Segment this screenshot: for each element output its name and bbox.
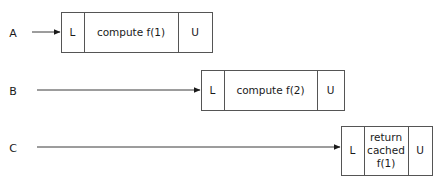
diagram-canvas: ALcompute f(1)UBLcompute f(2)UCLreturnca… bbox=[0, 0, 443, 182]
cell-body-text: compute f(1) bbox=[97, 26, 165, 38]
cell-lock-text: L bbox=[70, 26, 76, 38]
cell-unlock-text: U bbox=[191, 26, 199, 38]
cell-body-text: f(1) bbox=[377, 157, 396, 169]
cell-unlock-text: U bbox=[416, 144, 424, 156]
cell-lock-text: L bbox=[350, 144, 356, 156]
sequence-diagram: ALcompute f(1)UBLcompute f(2)UCLreturnca… bbox=[0, 0, 443, 182]
lane-label-b: B bbox=[9, 85, 17, 98]
lane-label-c: C bbox=[9, 142, 17, 155]
cell-body-text: compute f(2) bbox=[236, 84, 304, 96]
lane-b: BLcompute f(2)U bbox=[9, 71, 344, 111]
cell-body-text: cached bbox=[367, 144, 405, 156]
lane-c: CLreturncachedf(1)U bbox=[9, 127, 432, 176]
cell-unlock-text: U bbox=[327, 84, 335, 96]
lane-a: ALcompute f(1)U bbox=[9, 13, 212, 53]
lane-label-a: A bbox=[9, 27, 17, 40]
cell-body-text: return bbox=[370, 131, 402, 143]
cell-lock-text: L bbox=[210, 84, 216, 96]
